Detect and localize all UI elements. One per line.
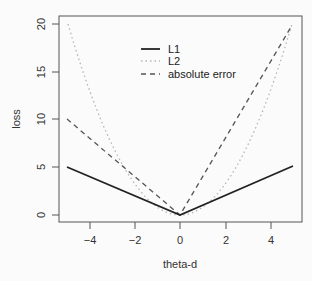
x-tick-labels: −4 −2 0 2 4 (84, 234, 274, 246)
x-tick-neg2: −2 (129, 234, 142, 246)
x-axis-title: theta-d (163, 258, 197, 270)
legend: L1 L2 absolute error (141, 43, 236, 80)
x-tick-0: 0 (177, 234, 183, 246)
y-tick-5: 5 (35, 164, 47, 170)
y-axis (52, 24, 59, 215)
x-tick-2: 2 (223, 234, 229, 246)
y-tick-labels: 0 5 10 15 20 (35, 18, 47, 218)
legend-label-absolute-error: absolute error (168, 68, 236, 80)
y-tick-15: 15 (35, 66, 47, 78)
y-tick-10: 10 (35, 113, 47, 125)
legend-label-l1: L1 (168, 43, 180, 55)
y-tick-20: 20 (35, 18, 47, 30)
y-tick-0: 0 (35, 212, 47, 218)
x-tick-4: 4 (268, 234, 274, 246)
chart-canvas: 0 5 10 15 20 −4 −2 0 2 4 theta-d loss L1… (0, 0, 312, 281)
x-axis (90, 222, 271, 229)
plot-frame (59, 16, 302, 222)
legend-label-l2: L2 (168, 55, 180, 67)
y-axis-title: loss (10, 109, 22, 129)
x-tick-neg4: −4 (84, 234, 97, 246)
series-l1-line (67, 166, 293, 215)
